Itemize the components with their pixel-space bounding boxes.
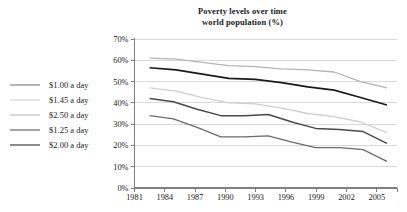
chart-plot-svg: 0%10%20%30%40%50%60%70%19811984198719901… [0, 0, 407, 212]
x-axis-tick-label: 1990 [217, 193, 234, 202]
y-axis-tick-label: 60% [113, 56, 128, 65]
series-line [150, 116, 387, 162]
x-axis-tick-label: 1981 [126, 193, 143, 202]
x-axis-tick-label: 2005 [369, 193, 386, 202]
x-axis-tick-label: 1984 [156, 193, 173, 202]
y-axis-tick-label: 10% [113, 163, 128, 172]
y-axis-tick-label: 30% [113, 120, 128, 129]
y-axis-tick-label: 70% [113, 35, 128, 44]
y-axis-tick-label: 20% [113, 141, 128, 150]
series-line [150, 58, 387, 88]
x-axis-tick-label: 1993 [247, 193, 264, 202]
x-axis-tick-label: 2002 [338, 193, 355, 202]
y-axis-tick-label: 40% [113, 99, 128, 108]
series-line [150, 68, 387, 105]
y-axis-tick-label: 50% [113, 78, 128, 87]
y-axis-tick-label: 0% [117, 184, 128, 193]
series-line [150, 99, 387, 144]
x-axis-tick-label: 1999 [308, 193, 325, 202]
chart-page: Poverty levels over time world populatio… [0, 0, 407, 212]
x-axis-tick-label: 1987 [187, 193, 204, 202]
x-axis-tick-label: 1996 [278, 193, 295, 202]
plot-area: 0%10%20%30%40%50%60%70%19811984198719901… [0, 0, 407, 212]
